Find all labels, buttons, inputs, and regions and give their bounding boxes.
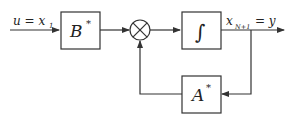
output-subscript: N+1 bbox=[234, 23, 250, 31]
output-label-eq: = y bbox=[255, 14, 276, 28]
input-label: u = x bbox=[13, 14, 45, 28]
block-a-label: A bbox=[190, 85, 204, 105]
block-a-superscript: * bbox=[206, 82, 211, 93]
a-to-sum-arrow bbox=[140, 41, 182, 94]
input-subscript: 1 bbox=[49, 22, 53, 30]
summing-junction bbox=[130, 20, 150, 40]
feedback-to-a-arrow bbox=[222, 30, 251, 94]
block-b-label: B bbox=[69, 21, 83, 41]
integral-icon: ∫ bbox=[195, 20, 205, 44]
block-b-superscript: * bbox=[86, 18, 91, 29]
output-label-x: x bbox=[226, 14, 233, 28]
block-diagram: u = x 1 B * ∫ x N+1 = y A * bbox=[0, 0, 292, 119]
